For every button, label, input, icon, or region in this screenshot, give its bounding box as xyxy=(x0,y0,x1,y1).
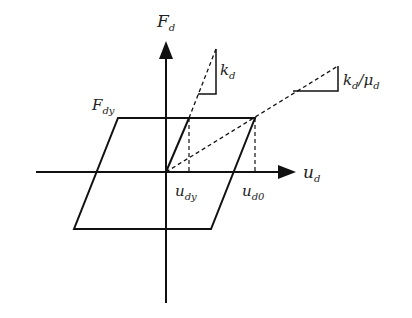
kd-dashed-line xyxy=(189,49,216,118)
effective-stiffness-label: kd/μd xyxy=(343,71,380,91)
x-axis-arrow-icon xyxy=(278,165,296,179)
yield-disp-label: udy xyxy=(175,182,197,202)
hysteresis-loop xyxy=(74,118,255,229)
max-disp-label: ud0 xyxy=(242,182,265,202)
y-axis-label: Fd xyxy=(156,11,175,33)
initial-stiffness-label: kd xyxy=(220,61,236,81)
initial-loading-line xyxy=(166,118,189,172)
hysteresis-diagram: Fd ud Fdy udy ud0 kd kd/μd xyxy=(0,0,412,318)
y-axis-arrow-icon xyxy=(159,41,173,59)
yield-force-label: Fdy xyxy=(91,96,115,116)
x-axis-label: ud xyxy=(303,162,320,184)
secant-slope-triangle xyxy=(293,66,338,91)
